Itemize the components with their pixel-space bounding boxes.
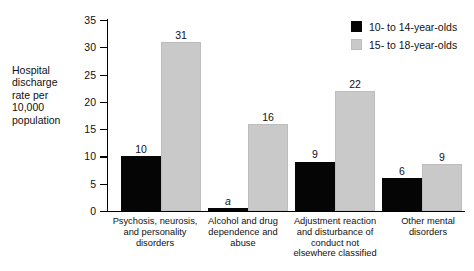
bar-value-label: 9: [439, 151, 445, 163]
category-line: Other mental: [386, 216, 470, 227]
x-category-label-adjustment: Adjustment reaction and disturbance of c…: [285, 216, 385, 259]
tick-mark: [100, 102, 107, 103]
y-tick-label: 35: [74, 14, 96, 26]
y-tick-label: 30: [74, 41, 96, 53]
category-line: abuse: [198, 238, 288, 249]
x-category-label-other: Other mental disorders: [386, 216, 470, 238]
x-category-label-psychosis: Psychosis, neurosis, and personality dis…: [108, 216, 202, 248]
y-tick-label: 10: [74, 150, 96, 162]
category-line: conduct not: [285, 238, 385, 249]
bar-value-label: 10: [135, 143, 147, 155]
legend-item-10-14: 10- to 14-year-olds: [351, 19, 457, 34]
bar-value-label: 6: [399, 165, 405, 177]
x-category-label-alcohol: Alcohol and drug dependence and abuse: [198, 216, 288, 248]
legend-item-15-18: 15- to 18-year-olds: [351, 37, 457, 52]
tick-mark: [100, 211, 107, 212]
category-line: Adjustment reaction: [285, 216, 385, 227]
bar-alcohol-10-14: a: [208, 208, 248, 211]
y-tick-label: 0: [74, 205, 96, 217]
category-line: elsewhere classified: [285, 248, 385, 259]
y-tick-label: 20: [74, 95, 96, 107]
bar-chart: Hospital discharge rate per 10,000 popul…: [0, 0, 474, 271]
bar-value-label: 31: [175, 29, 187, 41]
legend: 10- to 14-year-olds 15- to 18-year-olds: [351, 19, 457, 55]
tick-mark: [100, 47, 107, 48]
bar-value-label: 16: [262, 111, 274, 123]
category-line: and disturbance of: [285, 227, 385, 238]
bar-alcohol-15-18: 16: [248, 124, 288, 211]
legend-swatch-icon: [351, 21, 362, 32]
category-line: disorders: [386, 227, 470, 238]
bar-other-15-18: 9: [422, 164, 462, 212]
bar-value-label: a: [225, 195, 231, 207]
category-line: Alcohol and drug: [198, 216, 288, 227]
category-line: disorders: [108, 238, 202, 249]
legend-label: 10- to 14-year-olds: [369, 21, 457, 33]
bar-value-label: 9: [312, 148, 318, 160]
y-tick-label: 15: [74, 123, 96, 135]
bar-adjustment-15-18: 22: [335, 91, 375, 211]
tick-mark: [100, 20, 107, 21]
category-line: dependence and: [198, 227, 288, 238]
legend-label: 15- to 18-year-olds: [369, 39, 457, 51]
bar-psychosis-10-14: 10: [121, 156, 161, 211]
tick-mark: [100, 129, 107, 130]
bar-psychosis-15-18: 31: [161, 42, 201, 211]
y-tick-label: 5: [74, 177, 96, 189]
tick-mark: [100, 156, 107, 157]
bar-other-10-14: 6: [382, 178, 422, 211]
tick-mark: [100, 184, 107, 185]
category-line: Psychosis, neurosis,: [108, 216, 202, 227]
tick-mark: [100, 75, 107, 76]
category-line: and personality: [108, 227, 202, 238]
y-tick-label: 25: [74, 68, 96, 80]
bar-value-label: 22: [349, 78, 361, 90]
legend-swatch-icon: [351, 39, 362, 50]
bar-adjustment-10-14: 9: [295, 162, 335, 211]
